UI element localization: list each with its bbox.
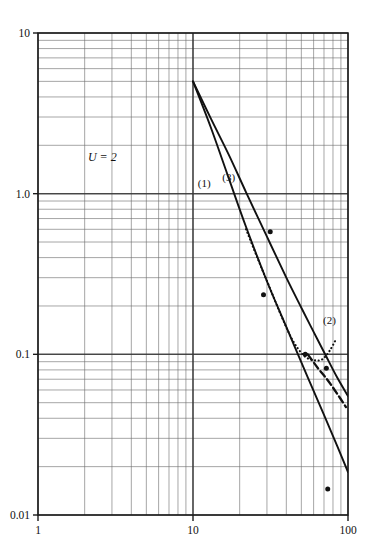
y-axis-label-3: 0.01 xyxy=(10,509,30,521)
y-axis-label-1: 1.0 xyxy=(16,188,31,200)
x-axis-label-0: 1 xyxy=(35,524,41,536)
data-point-3 xyxy=(324,366,329,371)
chart-canvas: 101.00.10.01 110100 U = 2(1)(3)(2) xyxy=(0,0,371,560)
y-axis-label-0: 10 xyxy=(19,27,31,39)
x-axis-label-1: 10 xyxy=(187,524,199,536)
y-axis-label-2: 0.1 xyxy=(16,348,31,360)
annotation-2: (2) xyxy=(323,314,336,327)
annotation-1: (1) xyxy=(198,177,211,190)
data-point-1 xyxy=(261,292,266,297)
data-point-2 xyxy=(303,352,308,357)
annotation-U2: U = 2 xyxy=(88,150,117,164)
data-point-4 xyxy=(325,487,330,492)
data-point-0 xyxy=(268,229,273,234)
x-axis-label-2: 100 xyxy=(339,524,357,536)
chart-background xyxy=(0,0,371,560)
log-log-chart-figure: 101.00.10.01 110100 U = 2(1)(3)(2) xyxy=(0,0,371,560)
annotation-3: (3) xyxy=(222,171,235,184)
